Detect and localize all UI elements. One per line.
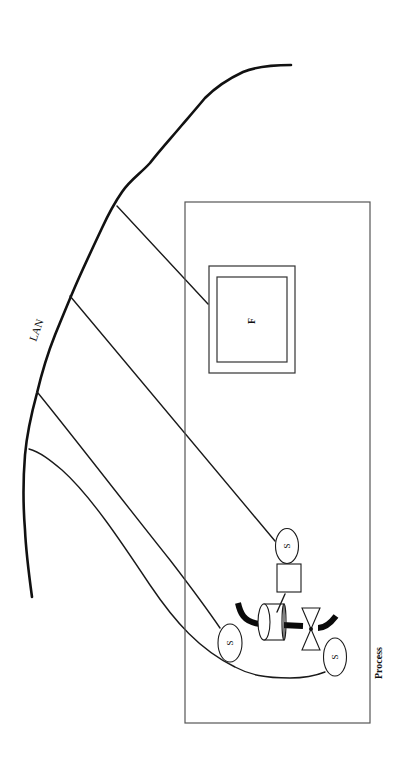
sensor-left-label: S (225, 640, 235, 645)
valve-stem-dot (309, 627, 313, 631)
lan-label: LAN (26, 317, 45, 342)
actuator-box[interactable] (277, 564, 301, 592)
cylinder-end (258, 604, 270, 640)
pump-cylinder[interactable] (258, 604, 286, 640)
sensor-bottom-right-label: S (330, 654, 340, 659)
process-pipe-outlet (318, 616, 336, 628)
sensor-left[interactable]: S (218, 624, 242, 662)
valve[interactable] (302, 608, 320, 650)
diagram-canvas: F S S S (0, 0, 399, 761)
sensor-top[interactable]: S (276, 529, 299, 564)
field-station[interactable]: F (209, 266, 295, 373)
field-station-label: F (246, 318, 257, 324)
sensor-top-label: S (282, 543, 292, 548)
branch-lan-to-field-station (117, 206, 208, 304)
process-label: Process (373, 647, 384, 679)
branch-lan-to-sensor-left (38, 393, 220, 628)
sensor-bottom-right[interactable]: S (324, 638, 347, 676)
